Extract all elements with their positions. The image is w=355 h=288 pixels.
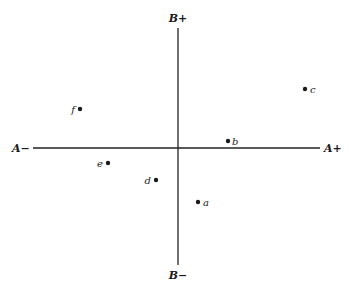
a-minus-label: A− (11, 142, 30, 155)
point-label: d (145, 175, 151, 186)
point-marker (196, 200, 200, 204)
point-b: b (226, 136, 239, 147)
point-d: d (145, 175, 159, 186)
point-marker (78, 107, 82, 111)
point-marker (106, 161, 110, 165)
a-plus-label: A+ (323, 142, 342, 155)
point-label: b (232, 136, 238, 147)
point-label: f (70, 104, 77, 115)
point-e: e (97, 158, 110, 169)
data-points: abcdef (70, 84, 316, 208)
b-minus-label: B− (168, 269, 188, 282)
diagram-canvas: A− A+ B+ B− abcdef (0, 0, 355, 288)
point-label: a (203, 197, 209, 208)
point-f: f (70, 104, 82, 115)
point-label: c (310, 84, 316, 95)
point-marker (226, 139, 230, 143)
point-marker (154, 178, 158, 182)
point-marker (303, 87, 307, 91)
b-plus-label: B+ (168, 12, 188, 25)
point-a: a (196, 197, 209, 208)
point-c: c (303, 84, 316, 95)
point-label: e (97, 158, 103, 169)
